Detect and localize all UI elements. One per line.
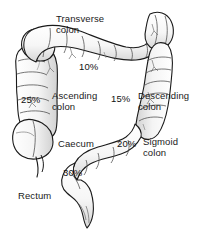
percent-sigmoid-colon: 20% <box>117 139 136 149</box>
percent-ascending-colon: 25% <box>21 95 40 105</box>
caecum-shape <box>13 119 53 177</box>
label-sigmoid-colon: Sigmoid colon <box>143 136 178 158</box>
label-transverse-colon: Transverse colon <box>56 13 104 35</box>
percent-descending-colon: 15% <box>111 94 130 104</box>
percent-rectum: 30% <box>63 168 82 178</box>
label-caecum: Caecum <box>58 138 94 149</box>
label-ascending-colon: Ascending colon <box>52 90 97 112</box>
colon-anatomy-diagram: Transverse colon 10% 25% Ascending colon… <box>0 0 205 231</box>
sigmoid-colon-shape <box>73 124 141 180</box>
label-descending-colon: Descending colon <box>138 90 189 112</box>
percent-transverse-colon: 10% <box>79 62 98 72</box>
label-rectum: Rectum <box>18 190 51 201</box>
